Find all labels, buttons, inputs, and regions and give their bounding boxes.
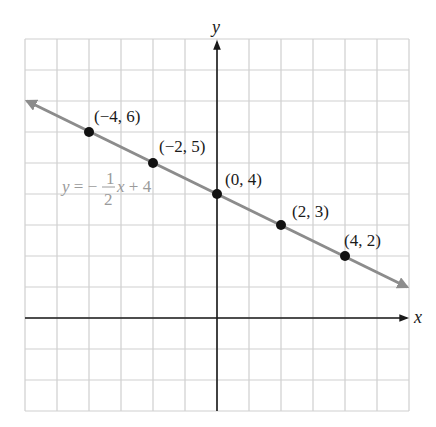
data-point: [276, 220, 286, 230]
data-point: [84, 127, 94, 137]
equation-fraction: 12x + 4: [102, 169, 152, 209]
data-point: [148, 158, 158, 168]
equation-suffix: x + 4: [116, 177, 152, 196]
axes: x y: [25, 17, 422, 411]
equation-equals-minus: = −: [70, 177, 98, 196]
point-label: (0, 4): [225, 170, 262, 189]
point-label: (2, 3): [292, 202, 329, 221]
equation-y: y: [60, 177, 70, 196]
data-point: [212, 189, 222, 199]
point-label: (4, 2): [344, 231, 381, 250]
line-graph: x y y = − (−4, 6)(−2, 5)(0, 4)(2, 3)(4, …: [0, 0, 436, 427]
x-axis-label: x: [413, 307, 422, 327]
equation-label: y = −: [60, 177, 97, 196]
point-label: (−2, 5): [159, 137, 205, 156]
fraction-numerator: 1: [106, 169, 115, 188]
data-point: [340, 251, 350, 261]
point-label: (−4, 6): [94, 107, 140, 126]
fraction-denominator: 2: [104, 190, 113, 209]
y-axis-label: y: [210, 17, 220, 37]
